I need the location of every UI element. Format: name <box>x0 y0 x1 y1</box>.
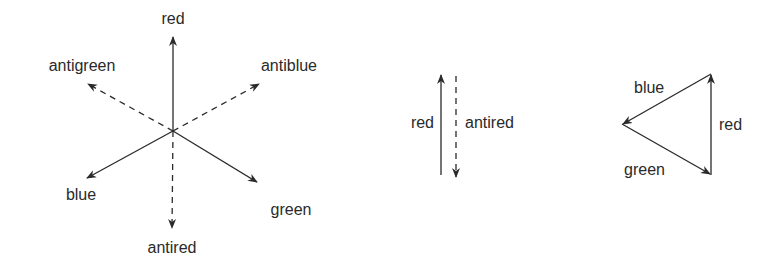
pair-label-antired: antired <box>465 114 514 131</box>
triangle-label-green: green <box>624 161 665 178</box>
green-vector-arrow <box>173 131 257 182</box>
antigreen-vector-arrow <box>88 84 173 131</box>
label-green: green <box>271 201 312 218</box>
label-antigreen: antigreen <box>49 57 116 74</box>
label-red: red <box>161 10 184 27</box>
label-antired: antired <box>148 239 197 256</box>
red-antired-pair: red antired <box>411 75 514 177</box>
triangle-label-red: red <box>719 116 742 133</box>
label-antiblue: antiblue <box>261 57 317 74</box>
pair-label-red: red <box>411 114 434 131</box>
antiblue-vector-arrow <box>173 84 259 131</box>
color-vector-diagram: red blue green antired antigreen antiblu… <box>0 0 782 270</box>
antired-vector-arrow <box>172 131 173 228</box>
triangle-label-blue: blue <box>634 79 664 96</box>
blue-vector-arrow <box>87 131 173 178</box>
label-blue: blue <box>66 186 96 203</box>
color-triangle: blue red green <box>622 74 742 178</box>
star-diagram: red blue green antired antigreen antiblu… <box>49 10 317 256</box>
